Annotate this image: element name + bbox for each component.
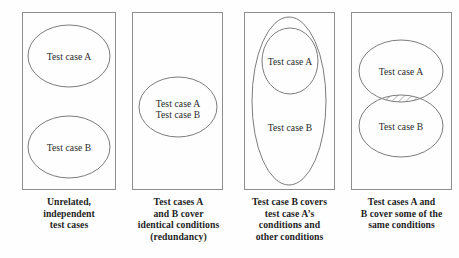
label-test-case-a: Test case A bbox=[250, 56, 330, 67]
label-test-case-b: Test case B bbox=[361, 121, 441, 132]
label-test-case-b: Test case B bbox=[250, 122, 330, 133]
panel-subset-frame bbox=[244, 12, 335, 190]
panel-unrelated-frame bbox=[22, 12, 116, 190]
caption-overlap: Test cases A and B cover some of the sam… bbox=[344, 196, 459, 231]
panel-overlap: Test case A Test case B Test cases A and… bbox=[344, 0, 459, 258]
caption-line: same conditions bbox=[344, 219, 459, 231]
caption-unrelated: Unrelated, independent test cases bbox=[14, 196, 124, 231]
label-test-case-a: Test case A bbox=[29, 51, 109, 62]
caption-line: conditions and bbox=[234, 219, 345, 231]
caption-line: independent bbox=[14, 208, 124, 220]
caption-line: other conditions bbox=[234, 231, 345, 243]
label-test-case-a: Test case A bbox=[138, 98, 218, 109]
label-test-case-b: Test case B bbox=[29, 142, 109, 153]
caption-line: test case A’s bbox=[234, 208, 345, 220]
panel-subset: Test case A Test case B Test case B cove… bbox=[237, 0, 344, 258]
caption-identical: Test cases A and B cover identical condi… bbox=[123, 196, 234, 242]
caption-line: (redundancy) bbox=[123, 231, 234, 243]
caption-line: test cases bbox=[14, 219, 124, 231]
label-test-case-b: Test case B bbox=[138, 109, 218, 120]
caption-line: B cover some of the bbox=[344, 208, 459, 220]
panel-row: Test case A Test case B Unrelated, indep… bbox=[0, 0, 459, 258]
caption-line: and B cover bbox=[123, 208, 234, 220]
panel-identical: Test case A Test case B Test cases A and… bbox=[130, 0, 237, 258]
caption-subset: Test case B covers test case A’s conditi… bbox=[234, 196, 345, 242]
caption-line: Test cases A and bbox=[344, 196, 459, 208]
caption-line: Test case B covers bbox=[234, 196, 345, 208]
test-case-coverage-diagram: Test case A Test case B Unrelated, indep… bbox=[0, 0, 459, 258]
caption-line: Unrelated, bbox=[14, 196, 124, 208]
caption-line: identical conditions bbox=[123, 219, 234, 231]
label-test-case-a: Test case A bbox=[361, 66, 441, 77]
panel-overlap-frame bbox=[351, 12, 452, 190]
caption-line: Test cases A bbox=[123, 196, 234, 208]
panel-unrelated: Test case A Test case B Unrelated, indep… bbox=[0, 0, 130, 258]
